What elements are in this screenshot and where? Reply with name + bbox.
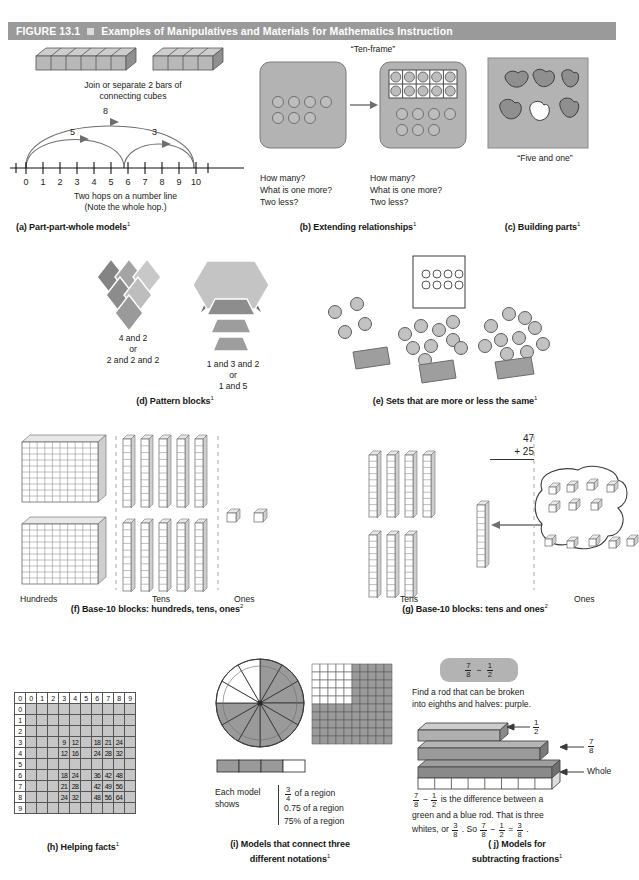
table-cell: 24 (70, 770, 81, 781)
table-cell (59, 704, 70, 715)
square-cell (384, 720, 392, 728)
ten-rod (122, 432, 136, 512)
column-header: 9 (125, 693, 136, 704)
table-cell (59, 726, 70, 737)
square-cell (360, 688, 368, 696)
counter (329, 306, 342, 319)
table-cell (125, 704, 136, 715)
table-row: 2 (15, 726, 136, 737)
table-cell (125, 715, 136, 726)
square-cell (368, 664, 376, 672)
panel-b-caption: (b) Extending relationships1 (258, 218, 458, 233)
table-cell: 9 (59, 737, 70, 748)
square-cell (352, 728, 360, 736)
ones-cubes (226, 508, 268, 523)
table-cell (81, 781, 92, 792)
ten-rod (122, 516, 136, 596)
row-header: 8 (15, 792, 26, 803)
table-row: 9 (15, 803, 136, 814)
square-cell (384, 672, 392, 680)
square-cell (312, 688, 320, 696)
table-cell (81, 759, 92, 770)
counter-dot (273, 113, 284, 124)
g-ones-cubes (544, 478, 630, 548)
square-bullet-icon (87, 28, 94, 35)
box-dot (444, 270, 452, 278)
square-cell (320, 728, 328, 736)
box-dot (422, 281, 430, 289)
box-dot (422, 270, 430, 278)
hop-right-arc (124, 144, 194, 168)
square-cell (360, 704, 368, 712)
table-header-row: 00123456789 (15, 693, 136, 704)
table-cell (103, 803, 114, 814)
table-cell: 56 (103, 792, 114, 803)
table-cell (92, 715, 103, 726)
square-cell (336, 672, 344, 680)
square-cell (360, 712, 368, 720)
table-cell: 16 (70, 748, 81, 759)
table-cell (48, 748, 59, 759)
square-cell (344, 672, 352, 680)
rhombus-text-2: or (85, 344, 181, 356)
exp-frac-1: 78 (413, 792, 419, 808)
set-right-counters (479, 308, 550, 361)
tick-label: 9 (173, 177, 185, 187)
counter (433, 324, 446, 337)
ten-frame-dot (445, 72, 455, 82)
table-cell (125, 737, 136, 748)
rod-label-whole: Whole (587, 766, 611, 776)
table-cell (92, 803, 103, 814)
square-cell (352, 712, 360, 720)
row-header: 0 (15, 704, 26, 715)
square-cell (368, 712, 376, 720)
panel-a: Join or separate 2 bars of connecting cu… (8, 44, 258, 234)
square-cell (320, 720, 328, 728)
cubes-caption-line2: connecting cubes (8, 91, 258, 103)
square-cell (344, 728, 352, 736)
exp-frac-2: 12 (431, 792, 437, 808)
tick-label: 10 (190, 177, 202, 187)
square-cell (344, 688, 352, 696)
counter (501, 348, 514, 361)
figure-title: Examples of Manipulatives and Materials … (101, 25, 453, 37)
table-cell (59, 803, 70, 814)
square-cell (312, 664, 320, 672)
table-cell (125, 748, 136, 759)
ten-frame-dot (391, 72, 401, 82)
table-cell (70, 759, 81, 770)
square-cell (344, 680, 352, 688)
table-cell (70, 715, 81, 726)
table-cell (37, 781, 48, 792)
right-questions: How many?What is one more?Two less? (370, 172, 470, 208)
table-cell (48, 770, 59, 781)
square-cell (328, 704, 336, 712)
counter (339, 326, 352, 339)
square-cell (352, 672, 360, 680)
question-line: What is one more? (370, 184, 470, 196)
square-cell (384, 704, 392, 712)
table-cell (114, 803, 125, 814)
unit-cube (568, 498, 581, 511)
table-cell (37, 792, 48, 803)
question-line: Two less? (260, 196, 360, 208)
square-cell (344, 720, 352, 728)
left-questions: How many?What is one more?Two less? (260, 172, 360, 208)
loose-dot (445, 109, 456, 120)
tick-label: 1 (37, 177, 49, 187)
table-cell (125, 781, 136, 792)
number-line-tick-labels: 012345678910 (8, 177, 258, 189)
tens-rods (122, 432, 214, 596)
numberline-note-line1: Two hops on a number line (8, 191, 243, 203)
table-cell: 56 (114, 781, 125, 792)
table-cell: 24 (59, 792, 70, 803)
column-header: 6 (92, 693, 103, 704)
table-cell (81, 704, 92, 715)
square-cell (344, 736, 352, 744)
table-cell (92, 704, 103, 715)
table-cell (81, 770, 92, 781)
notation-line: 0.75 of a region (284, 802, 344, 815)
table-cell (26, 770, 37, 781)
square-cell (360, 680, 368, 688)
counter (521, 346, 534, 359)
